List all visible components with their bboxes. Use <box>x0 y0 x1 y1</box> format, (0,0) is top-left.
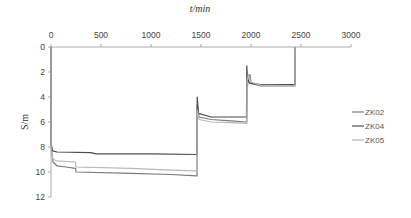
series-line-zk02 <box>51 47 295 176</box>
x-axis-ticks: 050010001500200025003000 <box>49 30 361 47</box>
x-tick-label: 3000 <box>342 30 361 40</box>
y-tick-label: 10 <box>36 167 46 177</box>
y-tick-label: 12 <box>36 192 46 202</box>
series-lines <box>51 47 295 176</box>
y-tick-label: 6 <box>40 117 45 127</box>
legend-label-zk05: ZK05 <box>365 136 385 145</box>
x-tick-label: 2500 <box>292 30 311 40</box>
y-axis-title: S/m <box>19 114 30 130</box>
x-tick-label: 2000 <box>242 30 261 40</box>
legend: ZK02ZK04ZK05 <box>352 108 385 145</box>
x-tick-label: 500 <box>94 30 108 40</box>
y-axis-ticks: 024681012 <box>36 42 51 202</box>
y-tick-label: 8 <box>40 142 45 152</box>
y-tick-label: 4 <box>40 92 45 102</box>
x-tick-label: 1500 <box>192 30 211 40</box>
series-line-zk04 <box>51 47 295 155</box>
y-tick-label: 2 <box>40 67 45 77</box>
y-tick-label: 0 <box>40 42 45 52</box>
x-tick-label: 1000 <box>142 30 161 40</box>
legend-label-zk04: ZK04 <box>365 122 385 131</box>
x-axis-title: t/min <box>190 3 211 14</box>
drawdown-chart: t/min 050010001500200025003000 024681012… <box>0 0 411 218</box>
x-tick-label: 0 <box>49 30 54 40</box>
legend-label-zk02: ZK02 <box>365 108 385 117</box>
